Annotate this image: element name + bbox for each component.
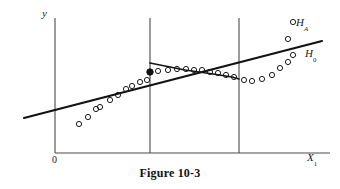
scatter-point xyxy=(155,68,160,73)
scatter-point xyxy=(285,59,290,64)
scatter-point xyxy=(137,79,142,84)
scatter-point xyxy=(285,36,290,41)
scatter-point xyxy=(290,52,295,57)
origin-label: 0 xyxy=(52,155,57,165)
figure-plot-svg xyxy=(0,0,340,189)
scatter-point xyxy=(129,83,134,88)
h0-line-segment xyxy=(24,41,322,118)
h0-regression-line xyxy=(24,41,322,118)
scatter-point xyxy=(144,77,149,82)
scatter-point xyxy=(76,121,81,126)
figure-caption: Figure 10-3 xyxy=(0,166,340,181)
scatter-point xyxy=(290,19,295,24)
scatter-point xyxy=(269,72,274,77)
scatter-point xyxy=(85,114,90,119)
x-axis-label-text: X xyxy=(307,151,314,163)
ha-curve-label-text: H xyxy=(296,16,304,28)
figure-container: y X1 0 HA H0 Figure 10-3 xyxy=(0,0,340,189)
h0-line-label: H0 xyxy=(305,48,316,62)
h0-line-label-text: H xyxy=(305,47,313,59)
filled-scatter-point xyxy=(147,69,153,75)
scatter-point xyxy=(249,78,254,83)
scatter-point xyxy=(107,97,112,102)
y-axis-label: y xyxy=(42,8,47,19)
highlighted-data-point xyxy=(147,69,153,75)
h0-line-label-subscript: 0 xyxy=(313,56,316,63)
origin-label-text: 0 xyxy=(52,154,57,165)
vertical-reference-lines-group xyxy=(150,18,239,153)
y-axis-label-text: y xyxy=(42,7,47,19)
scatter-point xyxy=(277,65,282,70)
scatter-point xyxy=(259,76,264,81)
scatter-point xyxy=(165,67,170,72)
scatter-point xyxy=(241,77,246,82)
ha-curve-label-subscript: A xyxy=(304,25,308,32)
x-axis-label: X1 xyxy=(307,152,317,166)
axes-group xyxy=(55,18,330,153)
scatter-points-group xyxy=(76,19,295,126)
ha-curve-label: HA xyxy=(296,17,308,31)
